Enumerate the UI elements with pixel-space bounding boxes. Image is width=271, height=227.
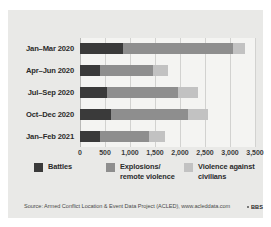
stacked-bar (80, 43, 255, 54)
bar-segment (100, 131, 149, 142)
x-tick-label: 1,000 (121, 149, 139, 156)
logo-text: BBS (251, 204, 263, 210)
stacked-bar (80, 109, 255, 120)
chart-legend: BattlesExplosions/remote violenceViolenc… (34, 162, 256, 181)
bar-segment (80, 43, 123, 54)
category-label: Jan–Feb 2021 (26, 132, 74, 141)
x-tick-label: 3,500 (246, 149, 264, 156)
legend-swatch (106, 163, 115, 172)
logo-dot-icon (247, 206, 249, 208)
source-text: Source: Armed Conflict Location & Event … (24, 203, 230, 209)
bar-segment (100, 65, 153, 76)
x-tick-label: 1,500 (146, 149, 164, 156)
bar-row: Jan–Mar 2020 (80, 38, 255, 60)
bar-row: Oct–Dec 2020 (80, 103, 255, 125)
legend-swatch (34, 163, 43, 172)
legend-item[interactable]: Explosions/remote violence (106, 162, 184, 181)
bar-segment (111, 109, 188, 120)
x-tick-label: 500 (99, 149, 111, 156)
bar-segment (153, 65, 168, 76)
x-tick-label: 0 (78, 149, 82, 156)
publisher-logo: BBS (247, 204, 263, 210)
bar-segment (188, 109, 208, 120)
x-tick-label: 3,000 (221, 149, 239, 156)
legend-label: Violence againstcivilians (198, 162, 255, 181)
x-tick-label: 2,500 (196, 149, 214, 156)
category-label: Apr–Jun 2020 (26, 66, 74, 75)
bar-segment (178, 87, 198, 98)
bar-segment (80, 87, 107, 98)
x-tick-label: 2,000 (171, 149, 189, 156)
bar-segment (233, 43, 246, 54)
legend-item[interactable]: Battles (34, 162, 106, 181)
gridline-3500 (255, 38, 256, 147)
stacked-bar (80, 131, 255, 142)
legend-item[interactable]: Violence againstcivilians (184, 162, 256, 181)
category-label: Jul–Sep 2020 (28, 88, 74, 97)
legend-label: Battles (48, 162, 72, 172)
category-label: Oct–Dec 2020 (26, 110, 74, 119)
bar-rows: Jan–Mar 2020Apr–Jun 2020Jul–Sep 2020Oct–… (80, 38, 255, 147)
stacked-bar (80, 87, 255, 98)
x-axis: 05001,0001,5002,0002,5003,0003,500 (80, 147, 255, 159)
plot-area: Jan–Mar 2020Apr–Jun 2020Jul–Sep 2020Oct–… (80, 38, 255, 147)
category-label: Jan–Mar 2020 (26, 44, 74, 53)
stacked-bar (80, 65, 255, 76)
bar-segment (80, 65, 100, 76)
legend-label: Explosions/remote violence (120, 162, 175, 181)
bar-segment (149, 131, 166, 142)
bar-row: Jan–Feb 2021 (80, 125, 255, 147)
bar-segment (80, 109, 111, 120)
chart-card: Jan–Mar 2020Apr–Jun 2020Jul–Sep 2020Oct–… (8, 10, 263, 218)
bar-segment (80, 131, 100, 142)
bar-row: Apr–Jun 2020 (80, 60, 255, 82)
source-bar: Source: Armed Conflict Location & Event … (24, 203, 263, 210)
bar-segment (107, 87, 178, 98)
bar-row: Jul–Sep 2020 (80, 82, 255, 104)
legend-swatch (184, 163, 193, 172)
bar-segment (123, 43, 233, 54)
